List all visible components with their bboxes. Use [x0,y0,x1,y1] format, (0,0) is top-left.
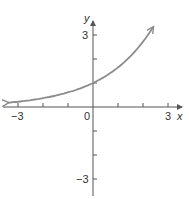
y-axis [93,21,97,196]
y-tick-label-neg3: −3 [76,173,89,185]
x-tick-label-3: 3 [165,110,171,122]
y-tick-label-3: 3 [82,29,88,41]
x-tick-label-neg3: −3 [11,110,24,122]
x-tick-label-0: 0 [84,110,90,122]
exponential-curve [8,27,153,102]
y-axis-label: y [83,12,91,24]
exponential-graph: y 3 −3 −3 0 3 x [0,0,189,199]
x-axis-label: x [176,110,183,122]
